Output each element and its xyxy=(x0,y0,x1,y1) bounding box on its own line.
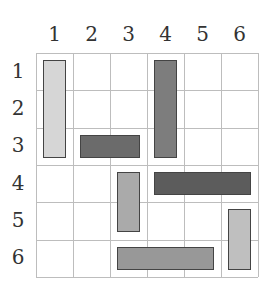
grid-line-vertical xyxy=(221,53,222,277)
block-C[interactable] xyxy=(80,135,140,158)
row-label-3: 3 xyxy=(6,127,30,164)
grid-line-vertical xyxy=(258,53,259,277)
row-label-5: 5 xyxy=(6,202,30,239)
puzzle-grid xyxy=(36,53,258,277)
block-G[interactable] xyxy=(117,247,214,270)
block-D[interactable] xyxy=(117,172,140,233)
col-label-4: 4 xyxy=(147,22,184,46)
block-F[interactable] xyxy=(228,209,251,270)
col-label-6: 6 xyxy=(221,22,258,46)
grid-line-horizontal xyxy=(36,277,258,278)
col-label-1: 1 xyxy=(36,22,73,46)
col-label-2: 2 xyxy=(73,22,110,46)
block-B[interactable] xyxy=(154,60,177,158)
row-label-4: 4 xyxy=(6,165,30,202)
grid-line-horizontal xyxy=(36,165,258,166)
col-label-3: 3 xyxy=(110,22,147,46)
grid-line-horizontal xyxy=(36,202,258,203)
block-E[interactable] xyxy=(154,172,251,195)
grid-line-vertical xyxy=(184,53,185,277)
grid-line-horizontal xyxy=(36,240,258,241)
row-label-6: 6 xyxy=(6,239,30,276)
row-label-2: 2 xyxy=(6,90,30,127)
block-A[interactable] xyxy=(43,60,66,158)
row-label-1: 1 xyxy=(6,53,30,90)
col-label-5: 5 xyxy=(184,22,221,46)
